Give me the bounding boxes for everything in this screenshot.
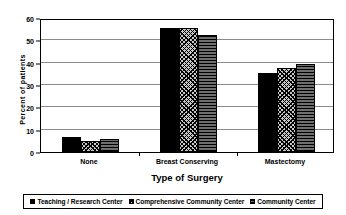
- legend-swatch-icon: [30, 199, 35, 204]
- legend-label: Community Center: [257, 198, 315, 205]
- legend-swatch-icon: [250, 199, 255, 204]
- bar[interactable]: [100, 139, 119, 152]
- bar[interactable]: [62, 137, 81, 152]
- bar[interactable]: [258, 73, 277, 152]
- x-axis-category-labels: NoneBreast ConservingMastectomy: [40, 158, 334, 170]
- x-category-label: Breast Conserving: [156, 158, 218, 165]
- bar[interactable]: [198, 35, 217, 152]
- legend-label: Comprehensive Community Center: [136, 198, 245, 205]
- plot-area: [40, 19, 334, 153]
- x-tick-mark: [139, 152, 140, 156]
- bar[interactable]: [296, 64, 315, 152]
- bar[interactable]: [81, 141, 100, 152]
- x-category-label: Mastectomy: [265, 158, 305, 165]
- bar-group: [258, 20, 315, 152]
- x-axis-title: Type of Surgery: [40, 172, 334, 183]
- bar[interactable]: [277, 68, 296, 152]
- bar-group: [62, 20, 119, 152]
- legend-item[interactable]: Teaching / Research Center: [30, 198, 122, 205]
- y-tick-label-30: 30: [26, 83, 34, 90]
- legend-item[interactable]: Comprehensive Community Center: [129, 198, 245, 205]
- y-tick-label-20: 20: [26, 105, 34, 112]
- y-axis-ticks: 0102030405060: [0, 19, 40, 153]
- legend-item[interactable]: Community Center: [250, 198, 315, 205]
- legend-label: Teaching / Research Center: [37, 198, 122, 205]
- bars-layer: [41, 20, 333, 152]
- x-category-label: None: [80, 158, 98, 165]
- y-tick-label-10: 10: [26, 127, 34, 134]
- bar-chart: Percent of patients 0102030405060 NoneBr…: [0, 0, 346, 215]
- y-tick-label-50: 50: [26, 38, 34, 45]
- bar[interactable]: [179, 28, 198, 152]
- x-tick-mark: [237, 152, 238, 156]
- legend-swatch-icon: [129, 199, 134, 204]
- y-tick-label-60: 60: [26, 16, 34, 23]
- bar[interactable]: [160, 28, 179, 152]
- y-tick-label-40: 40: [26, 60, 34, 67]
- y-tick-label-0: 0: [30, 150, 34, 157]
- bar-group: [160, 20, 217, 152]
- chart-legend: Teaching / Research CenterComprehensive …: [23, 194, 323, 209]
